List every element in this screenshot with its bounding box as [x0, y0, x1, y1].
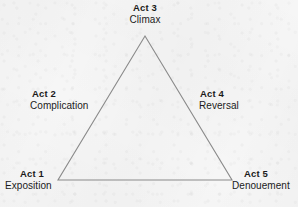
act-2-name: Complication [30, 101, 88, 111]
act-3-number: Act 3 [130, 3, 161, 13]
label-act-4: Act 4 Reversal [199, 89, 239, 111]
act-2-number: Act 2 [32, 89, 88, 99]
diagram-canvas: Act 3 Climax Act 2 Complication Act 4 Re… [0, 0, 298, 207]
act-4-name: Reversal [199, 101, 239, 111]
act-4-number: Act 4 [200, 89, 239, 99]
label-act-2: Act 2 Complication [30, 89, 88, 111]
act-5-name: Denouement [232, 181, 290, 191]
label-act-3: Act 3 Climax [130, 3, 161, 25]
act-1-name: Exposition [5, 181, 52, 191]
act-3-name: Climax [130, 15, 161, 25]
label-act-5: Act 5 Denouement [232, 169, 290, 191]
act-5-number: Act 5 [244, 169, 290, 179]
label-act-1: Act 1 Exposition [5, 169, 52, 191]
act-1-number: Act 1 [20, 169, 52, 179]
